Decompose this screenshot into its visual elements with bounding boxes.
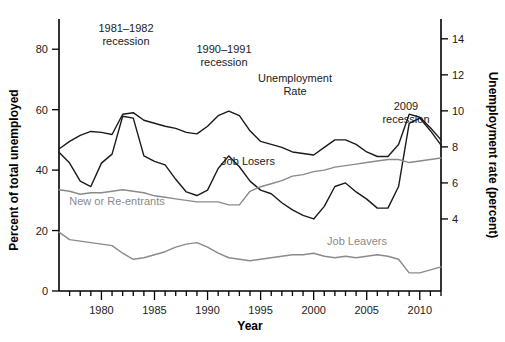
x-tick-label: 1980 (89, 304, 113, 316)
unemployment-composition-chart: 020406080 468101214 19801985199019952000… (0, 0, 505, 342)
x-tick-label: 1985 (142, 304, 166, 316)
recession-1990-1991-line1: 1990–1991 (196, 43, 251, 55)
x-tick-label: 2000 (301, 304, 325, 316)
recession-1981-1982-line2: recession (102, 35, 149, 47)
recession-2009-line1: 2009 (394, 100, 418, 112)
x-tick-label: 1990 (195, 304, 219, 316)
y-axis-right-ticks: 468101214 (441, 33, 464, 225)
y-axis-left-ticks: 020406080 (36, 43, 59, 297)
y-left-tick-label: 0 (42, 285, 48, 297)
y-axis-left-title: Percent of total unemployed (7, 89, 21, 250)
recession-2009-line2: recession (382, 113, 429, 125)
series-labels-group: UnemploymentRateJob LosersNew or Re-entr… (69, 72, 387, 247)
job-losers-label: Job Losers (221, 155, 275, 167)
y-left-tick-label: 40 (36, 164, 48, 176)
y-right-tick-label: 8 (452, 141, 458, 153)
chart-figure: 020406080 468101214 19801985199019952000… (0, 0, 505, 342)
recession-1990-1991-line2: recession (200, 56, 247, 68)
y-right-tick-label: 4 (452, 213, 458, 225)
x-axis-ticks: 1980198519901995200020052010 (70, 291, 441, 316)
y-axis-right-title: Unemployment rate (percent) (486, 72, 500, 239)
unemployment-rate-label-line2: Rate (283, 85, 306, 97)
recession-1981-1982-line1: 1981–1982 (98, 22, 153, 34)
y-left-tick-label: 60 (36, 104, 48, 116)
unemployment-rate-label-line1: Unemployment (258, 72, 332, 84)
y-left-tick-label: 20 (36, 225, 48, 237)
job-leavers-label: Job Leavers (327, 235, 387, 247)
recession-2009: 2009recession (382, 100, 429, 125)
x-tick-label: 1995 (248, 304, 272, 316)
y-right-tick-label: 6 (452, 177, 458, 189)
y-right-tick-label: 12 (452, 69, 464, 81)
data-series-group (59, 111, 441, 273)
new-or-re-entrants-label: New or Re-entrants (69, 195, 165, 207)
x-tick-label: 2010 (408, 304, 432, 316)
recession-1981-1982: 1981–1982recession (98, 22, 153, 47)
recession-1990-1991: 1990–1991recession (196, 43, 251, 68)
x-tick-label: 2005 (354, 304, 378, 316)
y-right-tick-label: 10 (452, 105, 464, 117)
y-right-tick-label: 14 (452, 33, 464, 45)
x-axis-title: Year (237, 319, 263, 333)
unemployment-rate-label: UnemploymentRate (258, 72, 332, 97)
y-left-tick-label: 80 (36, 43, 48, 55)
